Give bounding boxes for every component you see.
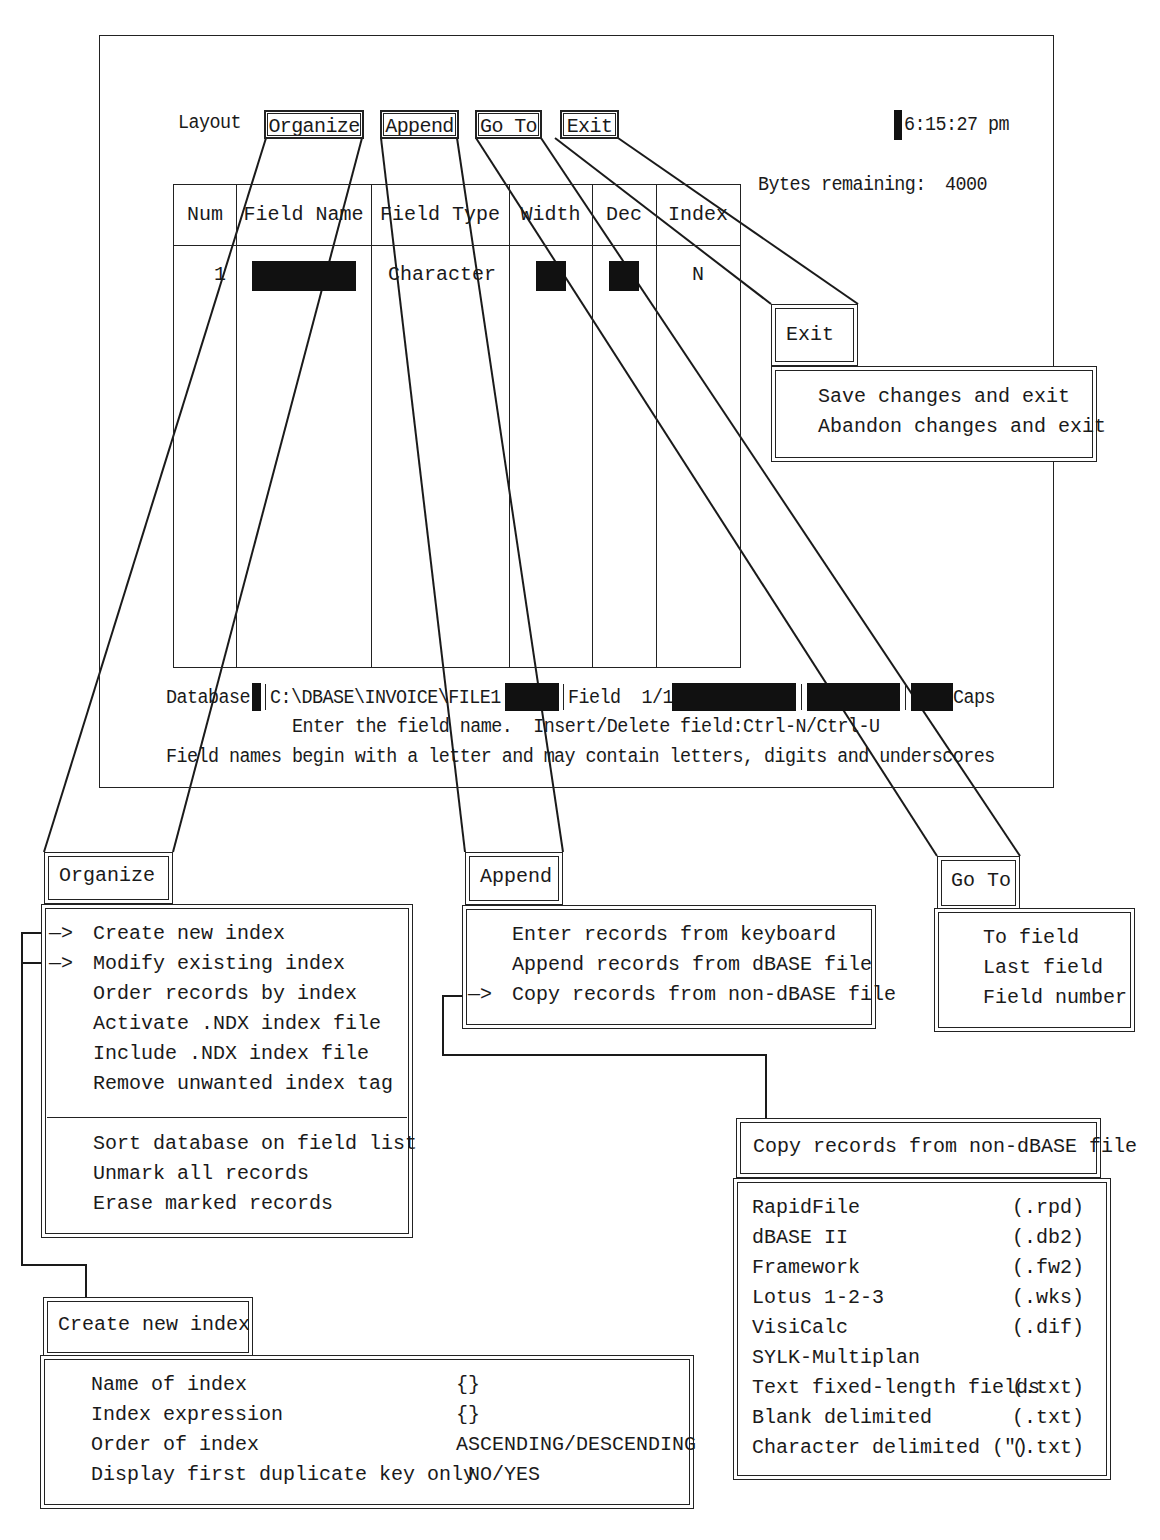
goto-last-field[interactable]: Last field (983, 953, 1103, 983)
copy-option-ext: (.fw2) (1012, 1253, 1084, 1283)
exit-popup-tab: Exit (771, 304, 858, 366)
organize-erase-marked[interactable]: Erase marked records (93, 1189, 333, 1219)
arrow-icon: —> (49, 919, 73, 949)
create-index-field-label: Name of index (91, 1370, 247, 1400)
menu-append[interactable]: Append (380, 110, 459, 139)
exit-popup-title: Exit (786, 321, 834, 349)
copy-option-ext: (.rpd) (1012, 1193, 1084, 1223)
copy-option-name[interactable]: RapidFile (752, 1193, 860, 1223)
organize-create-new-index[interactable]: Create new index (93, 919, 285, 949)
menu-exit[interactable]: Exit (560, 110, 619, 139)
append-copy-non-dbase[interactable]: Copy records from non-dBASE file (512, 980, 896, 1010)
row-num: 1 (174, 260, 226, 290)
col-divider (656, 185, 657, 667)
col-header-field-type: Field Type (371, 200, 509, 230)
create-index-name-input[interactable]: {} (456, 1370, 480, 1400)
goto-field-number[interactable]: Field number (983, 983, 1127, 1013)
exit-option-abandon[interactable]: Abandon changes and exit (818, 412, 1106, 442)
goto-popup-title: Go To (951, 867, 1011, 895)
field-name-input[interactable] (252, 261, 356, 291)
exit-popup: Save changes and exit Abandon changes an… (771, 366, 1097, 462)
organize-order-records[interactable]: Order records by index (93, 979, 357, 1009)
append-popup-title: Append (480, 863, 552, 891)
goto-popup: To field Last field Field number (934, 908, 1135, 1032)
copy-option-ext: (.txt) (1012, 1373, 1084, 1403)
field-type-value[interactable]: Character (388, 260, 496, 290)
status-block (505, 683, 559, 711)
status-divider (265, 684, 266, 710)
status-database-label: Database (166, 683, 250, 713)
index-value[interactable]: N (656, 260, 740, 290)
layout-menu-label[interactable]: Layout (178, 108, 241, 138)
copy-option-name[interactable]: Framework (752, 1253, 860, 1283)
message-line-2: Field names begin with a letter and may … (166, 742, 995, 772)
copy-option-name[interactable]: Character delimited (") (752, 1433, 1028, 1463)
copy-option-ext: (.txt) (1012, 1403, 1084, 1433)
menu-organize-label: Organize (268, 115, 359, 138)
status-block (252, 683, 261, 711)
organize-popup: —> Create new index —> Modify existing i… (41, 904, 413, 1238)
copy-option-name[interactable]: Blank delimited (752, 1403, 932, 1433)
menu-goto-label: Go To (480, 115, 537, 138)
menu-organize[interactable]: Organize (264, 110, 364, 139)
copy-option-ext: (.wks) (1012, 1283, 1084, 1313)
arrow-icon: —> (49, 949, 73, 979)
col-header-width: Width (509, 200, 592, 230)
status-caps: Caps (953, 683, 995, 713)
copy-records-popup-tab: Copy records from non-dBASE file (736, 1118, 1101, 1178)
dec-input[interactable] (609, 261, 639, 291)
create-index-field-label: Index expression (91, 1400, 283, 1430)
status-divider (905, 684, 906, 710)
create-index-expression-input[interactable]: {} (456, 1400, 480, 1430)
copy-option-ext: (.dif) (1012, 1313, 1084, 1343)
create-index-popup: Name of index {} Index expression {} Ord… (40, 1355, 694, 1509)
bytes-remaining-value: 4000 (945, 170, 987, 200)
exit-option-save[interactable]: Save changes and exit (818, 382, 1070, 412)
organize-include-ndx[interactable]: Include .NDX index file (93, 1039, 369, 1069)
create-index-field-label: Display first duplicate key only (91, 1460, 475, 1490)
copy-option-name[interactable]: dBASE II (752, 1223, 848, 1253)
goto-to-field[interactable]: To field (983, 923, 1079, 953)
cursor-block (894, 110, 902, 140)
status-divider (563, 684, 564, 710)
create-index-order-toggle[interactable]: ASCENDING/DESCENDING (456, 1430, 696, 1460)
copy-option-name[interactable]: Lotus 1-2-3 (752, 1283, 884, 1313)
copy-option-name[interactable]: SYLK-Multiplan (752, 1343, 920, 1373)
create-index-unique-toggle[interactable]: NO/YES (456, 1460, 540, 1490)
col-header-dec: Dec (592, 200, 656, 230)
bytes-remaining-label: Bytes remaining: (758, 170, 926, 200)
menu-append-label: Append (385, 115, 453, 138)
col-divider (371, 185, 372, 667)
copy-option-name[interactable]: Text fixed-length fields (752, 1373, 1040, 1403)
copy-option-ext: (.db2) (1012, 1223, 1084, 1253)
organize-modify-existing-index[interactable]: Modify existing index (93, 949, 345, 979)
field-definition-table: Num Field Name Field Type Width Dec Inde… (173, 184, 741, 668)
arrow-icon: —> (468, 980, 492, 1010)
organize-sort-database[interactable]: Sort database on field list (93, 1129, 417, 1159)
copy-option-ext: (.txt) (1012, 1433, 1084, 1463)
menu-exit-label: Exit (567, 115, 613, 138)
organize-activate-ndx[interactable]: Activate .NDX index file (93, 1009, 381, 1039)
organize-unmark-all[interactable]: Unmark all records (93, 1159, 309, 1189)
col-header-field-name: Field Name (236, 200, 371, 230)
organize-popup-tab: Organize (44, 852, 173, 904)
width-input[interactable] (536, 261, 566, 291)
status-block (807, 683, 900, 711)
col-header-num: Num (174, 200, 236, 230)
status-divider (801, 684, 802, 710)
organize-popup-title: Organize (59, 862, 155, 890)
append-enter-from-keyboard[interactable]: Enter records from keyboard (512, 920, 836, 950)
col-header-index: Index (656, 200, 740, 230)
menu-goto[interactable]: Go To (475, 110, 542, 139)
organize-remove-index-tag[interactable]: Remove unwanted index tag (93, 1069, 393, 1099)
create-index-field-label: Order of index (91, 1430, 259, 1460)
status-block (911, 683, 953, 711)
copy-option-name[interactable]: VisiCalc (752, 1313, 848, 1343)
clock: 6:15:27 pm (904, 110, 1009, 140)
append-from-dbase-file[interactable]: Append records from dBASE file (512, 950, 872, 980)
goto-popup-tab: Go To (937, 856, 1020, 910)
create-index-popup-tab: Create new index (43, 1297, 253, 1357)
append-popup-tab: Append (465, 852, 563, 905)
create-index-popup-title: Create new index (58, 1311, 250, 1339)
col-divider (592, 185, 593, 667)
